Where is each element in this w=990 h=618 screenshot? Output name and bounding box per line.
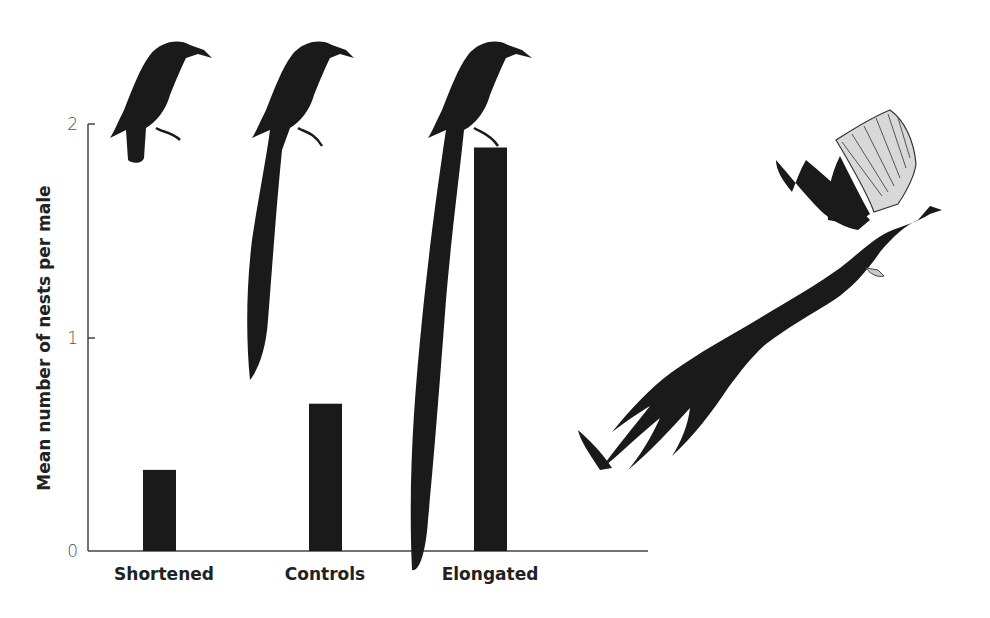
y-axis: 0 1 2 [67,114,95,561]
y-tick-0: 0 [67,541,78,561]
y-axis-label: Mean number of nests per male [34,185,54,490]
bird-controls-icon [247,42,354,380]
flying-bird-illustration [578,110,942,470]
bar-shortened [143,470,176,551]
x-label-shortened: Shortened [114,564,214,584]
bird-shortened-icon [110,42,212,163]
bar-elongated [474,148,507,552]
x-label-elongated: Elongated [442,564,539,584]
y-tick-2: 2 [67,114,78,134]
bird-elongated-icon [411,42,532,571]
x-label-controls: Controls [285,564,365,584]
chart: 0 1 2 Mean number of nests per male Shor… [0,0,990,618]
bar-controls [309,404,342,551]
y-tick-1: 1 [67,328,78,348]
